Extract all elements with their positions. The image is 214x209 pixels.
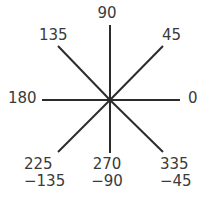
- angle-label-180-value: 180: [8, 89, 37, 107]
- angle-label-0: 0: [188, 90, 198, 107]
- ray-135: [58, 46, 110, 100]
- angle-label-45-value: 45: [162, 26, 181, 44]
- angle-label-335: 335 −45: [160, 156, 192, 190]
- angle-label-335-negative: −45: [160, 173, 192, 190]
- angle-label-335-value: 335: [160, 155, 189, 173]
- angle-label-270-value: 270: [93, 155, 122, 173]
- angle-label-180: 180: [8, 90, 37, 107]
- angle-label-90-value: 90: [97, 4, 116, 22]
- angle-label-135-value: 135: [39, 26, 68, 44]
- angle-ray-diagram: 90 135 45 180 0 225 −135 270 −90 335 −45: [0, 0, 214, 209]
- ray-225: [58, 100, 110, 152]
- ray-45: [110, 46, 163, 100]
- angle-label-135: 135: [39, 27, 68, 44]
- ray-335: [110, 100, 163, 152]
- angle-label-0-value: 0: [188, 89, 198, 107]
- angle-label-45: 45: [162, 27, 181, 44]
- angle-label-90: 90: [0, 5, 214, 22]
